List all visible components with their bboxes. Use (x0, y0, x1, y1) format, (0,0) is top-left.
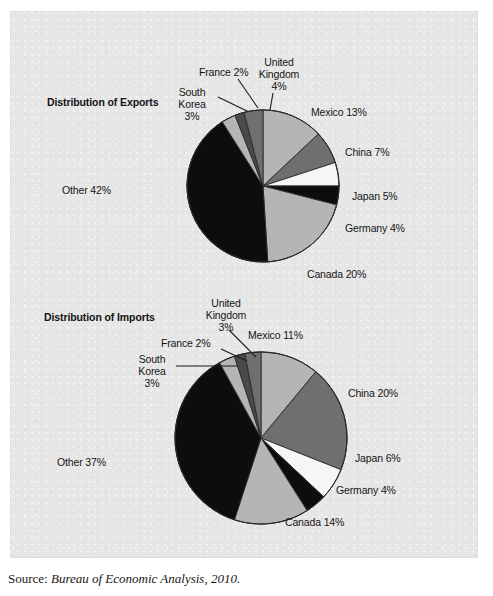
pie-label-imports-germany: Germany 4% (336, 484, 396, 496)
source-label: Source: (8, 571, 48, 586)
pie-label-imports-japan: Japan 6% (355, 452, 401, 464)
pie-imports-slices (175, 352, 347, 524)
pie-label-imports-canada: Canada 14% (285, 516, 344, 528)
source-line: Source: Bureau of Economic Analysis, 201… (8, 571, 240, 587)
figure-root: Distribution of Exports France 2% United… (0, 0, 493, 596)
pie-label-imports-uk: United Kingdom 3% (198, 297, 254, 334)
pie-label-imports-mexico: Mexico 11% (248, 329, 303, 341)
pie-label-imports-france: France 2% (161, 337, 210, 349)
pie-label-imports-korea: South Korea 3% (130, 353, 174, 390)
pie-label-imports-china: China 20% (348, 387, 398, 399)
pie-label-imports-other: Other 37% (57, 456, 106, 468)
source-text: Bureau of Economic Analysis, 2010. (51, 571, 240, 586)
